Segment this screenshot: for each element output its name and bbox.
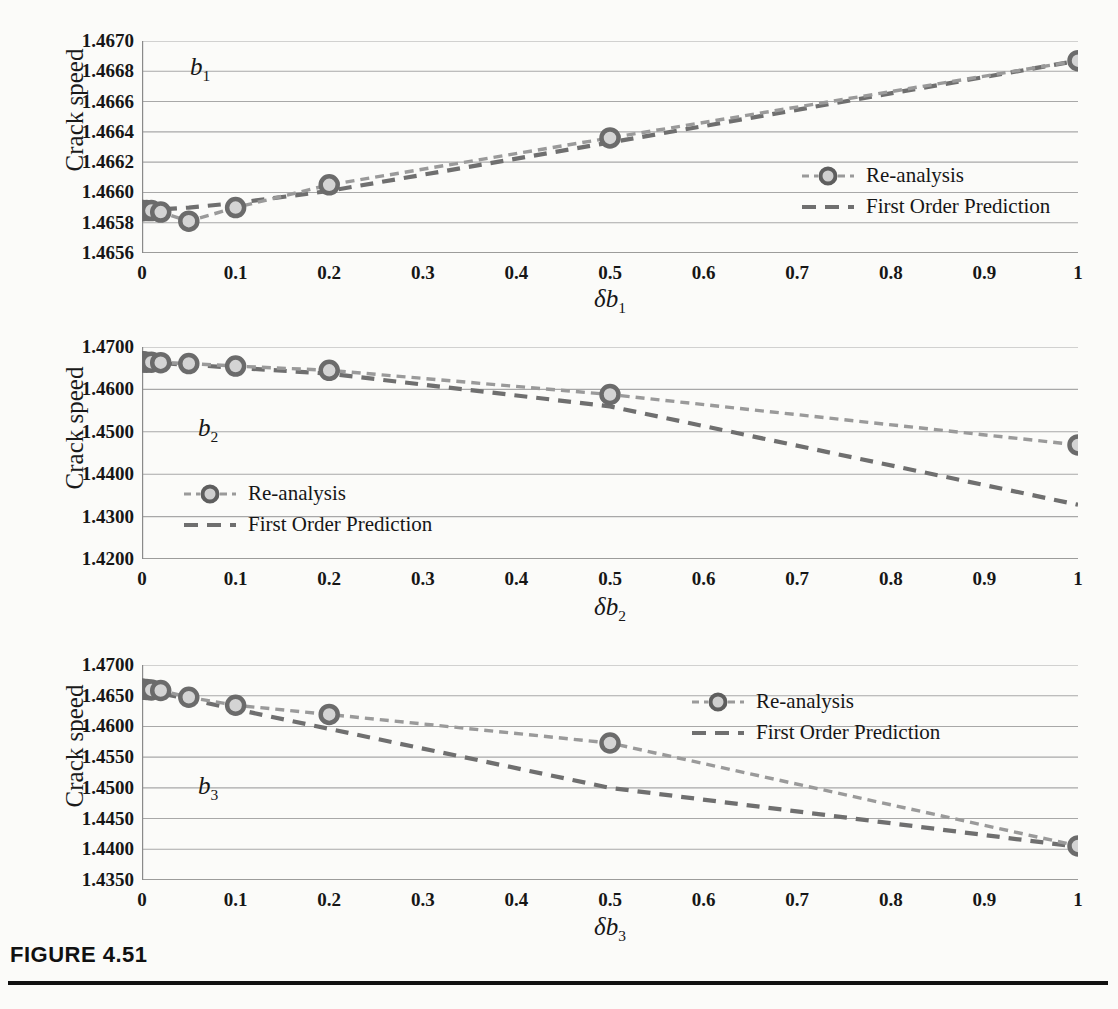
data-point-marker: [180, 213, 197, 230]
y-axis-tick-label: 1.4450: [48, 808, 134, 830]
y-axis-tick-label: 1.4664: [48, 121, 134, 143]
x-axis-tick-label: 0.3: [411, 889, 435, 911]
data-point-marker: [602, 129, 619, 146]
y-axis-tick-label: 1.4666: [48, 91, 134, 113]
y-axis-tick-label: 1.4500: [48, 421, 134, 443]
y-axis-tick-label: 1.4700: [48, 336, 134, 358]
y-axis-tick-label: 1.4658: [48, 212, 134, 234]
y-axis-tick-label: 1.4656: [48, 242, 134, 264]
data-point-marker: [227, 358, 244, 375]
data-point-marker: [180, 689, 197, 706]
legend-label-first-order: First Order Prediction: [756, 717, 940, 748]
data-point-marker: [602, 386, 619, 403]
x-axis-tick-label: 1: [1073, 889, 1083, 911]
legend-row-first-order: First Order Prediction: [182, 509, 432, 540]
data-point-marker: [1070, 436, 1079, 453]
x-axis-tick-label: 0.2: [317, 889, 341, 911]
x-axis-tick-label: 0.8: [879, 262, 903, 284]
x-axis-tick-label: 0.9: [973, 889, 997, 911]
legend-line-first-order-icon: [800, 197, 856, 217]
legend-label-reanalysis: Re-analysis: [248, 478, 346, 509]
x-axis-tick-label: 0.4: [505, 262, 529, 284]
data-point-marker: [227, 697, 244, 714]
x-axis-tick-label: 0.7: [785, 568, 809, 590]
legend-label-reanalysis: Re-analysis: [866, 160, 964, 191]
series-annotation-b2: b2: [198, 414, 218, 446]
legend-row-first-order: First Order Prediction: [690, 717, 940, 748]
x-axis-tick-label: 0.7: [785, 262, 809, 284]
x-axis-tick-label: 0.4: [505, 889, 529, 911]
legend-b1: Re-analysis First Order Prediction: [800, 160, 1050, 222]
x-axis-tick-label: 0.8: [879, 889, 903, 911]
y-axis-tick-label: 1.4662: [48, 151, 134, 173]
x-axis-tick-label: 0.5: [598, 889, 622, 911]
x-axis-tick-label: 1: [1073, 262, 1083, 284]
data-point-marker: [180, 355, 197, 372]
x-axis-tick-label: 0: [137, 889, 147, 911]
x-axis-tick-label: 0.6: [692, 889, 716, 911]
data-point-marker: [227, 199, 244, 216]
legend-label-first-order: First Order Prediction: [248, 509, 432, 540]
x-axis-tick-label: 0.1: [224, 568, 248, 590]
data-point-marker: [321, 176, 338, 193]
data-point-marker: [1070, 52, 1079, 69]
legend-line-first-order-icon: [690, 723, 746, 743]
y-axis-tick-label: 1.4300: [48, 506, 134, 528]
y-axis-tick-label: 1.4670: [48, 30, 134, 52]
legend-row-reanalysis: Re-analysis: [690, 686, 940, 717]
x-axis-tick-label: 0.9: [973, 262, 997, 284]
data-point-marker: [152, 354, 169, 371]
legend-marker-reanalysis-icon: [800, 166, 856, 186]
chart-panel-b1: Crack speed 1.46561.46581.46601.46621.46…: [0, 0, 1118, 318]
data-point-marker: [602, 735, 619, 752]
figure-caption: FIGURE 4.51: [10, 942, 148, 968]
legend-marker-reanalysis-icon: [690, 692, 746, 712]
x-axis-tick-label: 0.6: [692, 568, 716, 590]
legend-b2: Re-analysis First Order Prediction: [182, 478, 432, 540]
x-axis-tick-label: 0.5: [598, 568, 622, 590]
y-axis-tick-label: 1.4550: [48, 746, 134, 768]
y-axis-tick-label: 1.4500: [48, 777, 134, 799]
y-axis-tick-label: 1.4600: [48, 378, 134, 400]
x-axis-tick-label: 0.9: [973, 568, 997, 590]
series-annotation-b3: b3: [198, 772, 218, 804]
legend-marker-reanalysis-icon: [182, 484, 238, 504]
x-axis-tick-label: 0.2: [317, 262, 341, 284]
y-axis-tick-label: 1.4400: [48, 838, 134, 860]
legend-label-reanalysis: Re-analysis: [756, 686, 854, 717]
x-axis-title-b3: δb3: [594, 913, 626, 945]
x-axis-tick-label: 0.5: [598, 262, 622, 284]
y-axis-tick-label: 1.4600: [48, 715, 134, 737]
x-axis-title-b2: δb2: [594, 593, 626, 625]
x-axis-tick-label: 0: [137, 568, 147, 590]
legend-row-first-order: First Order Prediction: [800, 191, 1050, 222]
y-axis-tick-label: 1.4660: [48, 181, 134, 203]
data-point-marker: [152, 204, 169, 221]
caption-divider: [8, 981, 1108, 985]
x-axis-tick-label: 0.4: [505, 568, 529, 590]
x-axis-tick-label: 0.1: [224, 889, 248, 911]
x-axis-tick-label: 1: [1073, 568, 1083, 590]
legend-b3: Re-analysis First Order Prediction: [690, 686, 940, 748]
legend-label-first-order: First Order Prediction: [866, 191, 1050, 222]
series-annotation-b1: b1: [190, 53, 210, 85]
legend-row-reanalysis: Re-analysis: [182, 478, 432, 509]
x-axis-tick-label: 0.7: [785, 889, 809, 911]
data-point-marker: [321, 362, 338, 379]
x-axis-tick-label: 0: [137, 262, 147, 284]
legend-line-first-order-icon: [182, 515, 238, 535]
chart-panel-b3: Crack speed 1.43501.44001.44501.45001.45…: [0, 636, 1118, 918]
x-axis-tick-label: 0.1: [224, 262, 248, 284]
x-axis-tick-label: 0.6: [692, 262, 716, 284]
x-axis-tick-label: 0.2: [317, 568, 341, 590]
x-axis-title-b1: δb1: [594, 285, 626, 317]
y-axis-tick-label: 1.4400: [48, 463, 134, 485]
data-point-marker: [1070, 837, 1079, 854]
y-axis-tick-label: 1.4668: [48, 60, 134, 82]
chart-panel-b2: Crack speed 1.42001.43001.44001.45001.46…: [0, 318, 1118, 636]
x-axis-tick-label: 0.3: [411, 262, 435, 284]
y-axis-tick-label: 1.4350: [48, 869, 134, 891]
x-axis-tick-label: 0.3: [411, 568, 435, 590]
y-axis-tick-label: 1.4700: [48, 654, 134, 676]
y-axis-tick-label: 1.4650: [48, 685, 134, 707]
